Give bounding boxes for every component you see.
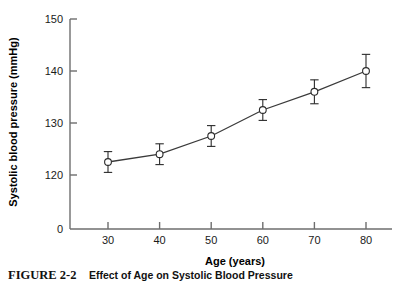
data-point-marker [259,107,266,114]
x-tick-label: 70 [308,234,320,246]
data-point-marker [156,151,163,158]
x-tick-label: 50 [205,234,217,246]
x-tick-label: 80 [360,234,372,246]
figure-caption-label: FIGURE 2-2 [8,270,76,282]
y-tick-label: 120 [45,169,63,181]
figure-caption-text: FIGURE 2-2 Effect of Age on Systolic Blo… [8,270,293,283]
y-tick-label: 130 [45,117,63,129]
data-point-marker [311,88,318,95]
x-tick-label: 40 [153,234,165,246]
figure-caption: FIGURE 2-2 Effect of Age on Systolic Blo… [0,270,400,284]
y-axis-title: Systolic blood pressure (mmHg) [7,37,19,207]
x-tick-label: 60 [257,234,269,246]
x-axis-title: Age (years) [205,255,265,267]
figure-caption-body: Effect of Age on Systolic Blood Pressure [89,270,293,281]
figure-container: 0120130140150 304050607080 Age (years) S… [0,0,400,284]
y-tick-label: 140 [45,65,63,77]
y-tick-label: 150 [45,13,63,25]
x-tick-label: 30 [102,234,114,246]
y-tick-label: 0 [57,223,63,235]
data-point-marker [208,133,215,140]
data-point-marker [363,68,370,75]
systolic-blood-pressure-chart: 0120130140150 304050607080 Age (years) S… [0,0,400,284]
chart-background [0,0,400,284]
data-point-marker [105,159,112,166]
